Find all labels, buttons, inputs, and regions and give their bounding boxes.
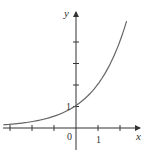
x-axis-label: x — [136, 131, 141, 142]
y-axis-label: y — [64, 8, 69, 19]
exponential-curve — [3, 21, 126, 125]
chart-canvas — [0, 0, 153, 155]
origin-label: 0 — [67, 132, 72, 142]
y-tick-label-1: 1 — [66, 102, 71, 112]
x-tick-label-1: 1 — [96, 135, 101, 145]
